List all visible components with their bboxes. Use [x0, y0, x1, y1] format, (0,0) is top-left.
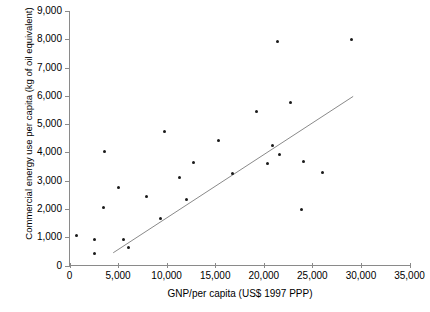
x-axis-tick	[167, 263, 168, 268]
x-axis-tick	[118, 263, 119, 268]
x-axis-tick	[410, 263, 411, 268]
x-axis-tick	[215, 263, 216, 268]
y-axis-tick	[65, 152, 70, 153]
y-axis-tick	[65, 68, 70, 69]
y-axis-tick	[65, 96, 70, 97]
x-axis-tick	[264, 263, 265, 268]
x-axis-tick	[70, 263, 71, 268]
x-axis-title: GNP/per capita (US$ 1997 PPP)	[70, 288, 410, 299]
x-axis-tick	[361, 263, 362, 268]
y-axis-tick	[65, 209, 70, 210]
y-axis-tick	[65, 237, 70, 238]
x-axis-tick	[312, 263, 313, 268]
y-axis-tick	[65, 124, 70, 125]
y-axis-tick	[65, 39, 70, 40]
y-axis-tick	[65, 181, 70, 182]
y-axis-tick	[65, 11, 70, 12]
